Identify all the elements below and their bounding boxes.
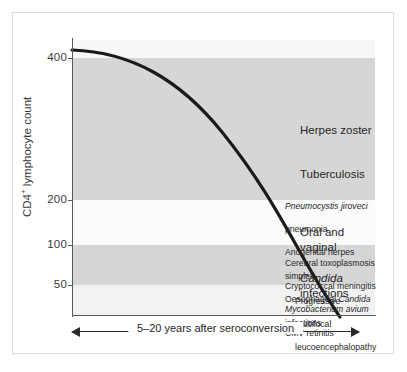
x-axis-caption: 5–20 years after seroconversion bbox=[72, 322, 359, 342]
annotation-line: Herpes zoster bbox=[300, 123, 375, 138]
y-tick-mark-400 bbox=[68, 58, 72, 59]
y-axis-title-rest: lymphocyte count bbox=[21, 97, 33, 190]
x-axis-line bbox=[72, 315, 376, 316]
y-tick-mark-200 bbox=[68, 200, 72, 201]
y-axis-title-prefix: CD4 bbox=[21, 194, 33, 217]
arrow-right-icon bbox=[351, 327, 360, 337]
y-tick-mark-100 bbox=[68, 245, 72, 246]
y-tick-label-50: 50 bbox=[54, 278, 67, 290]
annotation-line: Cerebral toxoplasmosis bbox=[285, 258, 376, 270]
annotation-line: leucoencephalopathy bbox=[295, 342, 376, 354]
y-axis-title: CD4+ lymphocyte count bbox=[19, 87, 33, 227]
x-axis-label: 5–20 years after seroconversion bbox=[128, 322, 303, 334]
annotation-line: Progressive bbox=[295, 296, 376, 308]
annotation-line: Tuberculosis bbox=[300, 167, 375, 182]
y-axis-line bbox=[72, 38, 73, 317]
annotation-line: pneumonia bbox=[285, 224, 371, 236]
y-tick-label-100: 100 bbox=[47, 238, 67, 250]
y-tick-label-200: 200 bbox=[47, 193, 67, 205]
y-axis-ticks: 400 200 100 50 bbox=[0, 0, 67, 372]
y-tick-mark-50 bbox=[68, 285, 72, 286]
arrow-left-icon bbox=[71, 327, 80, 337]
y-axis-title-superscript: + bbox=[19, 189, 28, 194]
annotation-species: Pneumocystis jiroveci bbox=[285, 201, 371, 213]
figure-root: Herpes zoster Tuberculosis Oral and vagi… bbox=[0, 0, 407, 372]
y-tick-label-400: 400 bbox=[47, 51, 67, 63]
